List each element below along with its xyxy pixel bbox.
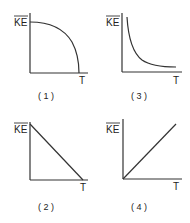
increasing-line (123, 124, 176, 179)
panel-caption: ( 1 ) (38, 91, 54, 101)
panel-2: KE T ( 2 ) (14, 122, 88, 212)
panel-3: KE T ( 3 ) (106, 13, 182, 101)
decreasing-line (30, 124, 83, 180)
y-axis-label: KE (106, 17, 120, 28)
panel-1: KE T ( 1 ) (14, 13, 88, 101)
x-axis-label: T (79, 75, 85, 86)
hyperbola-curve (127, 17, 176, 67)
y-axis-label: KE (14, 17, 28, 28)
quarter-ellipse-curve (30, 22, 79, 73)
panel-caption: ( 2 ) (38, 202, 54, 212)
y-axis-label: KE (106, 124, 120, 135)
four-graph-diagram: KE T ( 1 ) KE T ( 3 ) KE T ( 2 ) KE T ( … (0, 0, 190, 223)
panel-caption: ( 3 ) (131, 91, 147, 101)
x-axis-label: T (80, 182, 86, 193)
x-axis-label: T (173, 181, 179, 192)
y-axis-label: KE (14, 124, 28, 135)
panel-caption: ( 4 ) (131, 202, 147, 212)
x-axis-label: T (173, 75, 179, 86)
panel-4: KE T ( 4 ) (106, 119, 182, 212)
